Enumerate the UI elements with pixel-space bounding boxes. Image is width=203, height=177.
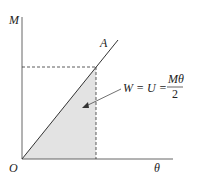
moment-rotation-diagram: M A O θ W = U = Mθ 2: [0, 0, 203, 177]
equation-numerator: Mθ: [167, 72, 184, 86]
origin-label: O: [9, 161, 18, 175]
equation-lhs: W = U =: [123, 81, 167, 95]
x-axis-label: θ: [154, 161, 160, 175]
line-label-A: A: [99, 36, 108, 50]
y-axis-label: M: [8, 13, 20, 27]
equation-denominator: 2: [172, 87, 178, 101]
